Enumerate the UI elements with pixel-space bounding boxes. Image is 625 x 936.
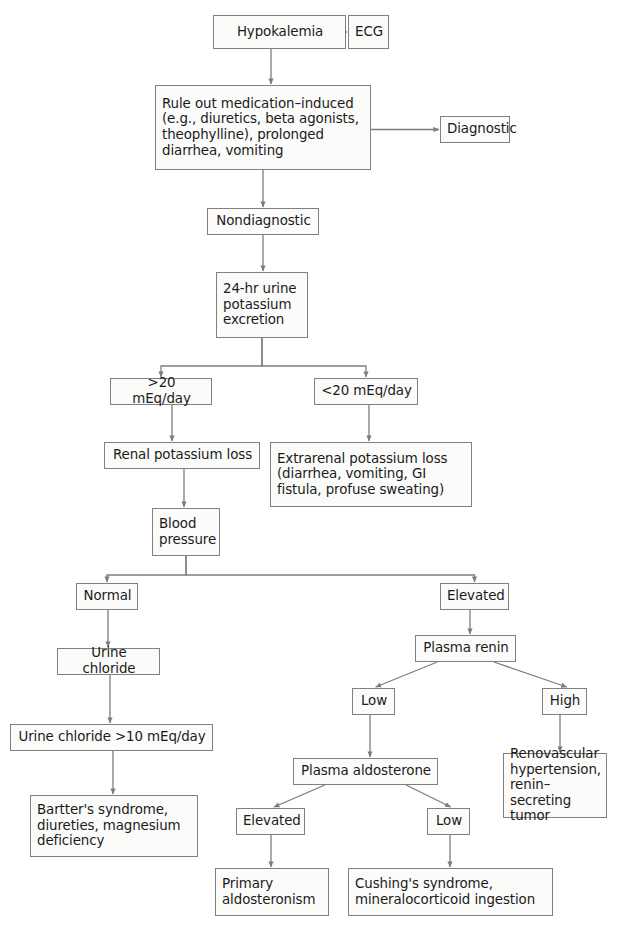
node-label-renin-high: High: [549, 693, 581, 709]
edge-e-urine-gt20: [161, 338, 262, 377]
node-diagnostic: Diagnostic: [440, 116, 510, 143]
node-bartter: Bartter's syndrome, diureties, magnesium…: [30, 795, 198, 857]
node-label-renin-low: Low: [359, 693, 389, 709]
node-urine-chloride-gt10: Urine chloride >10 mEq/day: [10, 724, 213, 751]
edge-e-aldo-elev: [274, 785, 325, 807]
node-urine-chloride: Urine chloride: [57, 648, 160, 675]
node-label-urine-chloride-gt10: Urine chloride >10 mEq/day: [17, 729, 207, 745]
node-label-lt20: <20 mEq/day: [321, 383, 412, 399]
flowchart-canvas: HypokalemiaECGRule out medication–induce…: [0, 0, 625, 936]
node-nondiagnostic: Nondiagnostic: [207, 208, 319, 235]
edge-e-bp-elevated: [186, 556, 475, 582]
node-label-plasma-aldosterone: Plasma aldosterone: [300, 763, 432, 779]
node-renovascular: Renovascular hypertension, renin–secreti…: [503, 753, 607, 818]
node-plasma-aldosterone: Plasma aldosterone: [293, 758, 438, 785]
node-label-elevated-bp: Elevated: [447, 588, 503, 604]
node-cushings: Cushing's syndrome, mineralocorticoid in…: [348, 868, 553, 916]
node-blood-pressure: Blood pressure: [152, 508, 220, 556]
node-label-gt20: >20 mEq/day: [117, 375, 206, 406]
edge-e-renin-high: [494, 662, 567, 687]
node-label-urine-potassium: 24-hr urine potassium excretion: [223, 281, 302, 328]
node-label-renal-loss: Renal potassium loss: [111, 447, 254, 463]
node-ecg: ECG: [348, 15, 389, 49]
node-label-renovascular: Renovascular hypertension, renin–secreti…: [510, 746, 601, 824]
node-rule-out: Rule out medication–induced (e.g., diure…: [155, 85, 371, 170]
node-label-normal: Normal: [83, 588, 132, 604]
node-aldo-elevated: Elevated: [236, 808, 305, 835]
edge-e-urine-lt20: [262, 338, 366, 377]
node-label-ecg: ECG: [355, 24, 383, 40]
node-gt20: >20 mEq/day: [110, 378, 212, 405]
edge-e-renin-low: [376, 662, 438, 687]
node-label-primary-aldosteronism: Primary aldosteronism: [222, 876, 323, 907]
node-label-extrarenal-loss: Extrarenal potassium loss (diarrhea, vom…: [277, 451, 466, 498]
node-label-blood-pressure: Blood pressure: [159, 516, 214, 547]
node-label-bartter: Bartter's syndrome, diureties, magnesium…: [37, 802, 192, 849]
edge-e-aldo-low: [406, 785, 451, 807]
node-elevated-bp: Elevated: [440, 583, 509, 610]
node-hypokalemia: Hypokalemia: [213, 15, 346, 49]
node-extrarenal-loss: Extrarenal potassium loss (diarrhea, vom…: [270, 442, 472, 507]
node-label-plasma-renin: Plasma renin: [422, 640, 510, 656]
node-label-cushings: Cushing's syndrome, mineralocorticoid in…: [355, 876, 547, 907]
node-primary-aldosteronism: Primary aldosteronism: [215, 868, 329, 916]
node-label-urine-chloride: Urine chloride: [64, 645, 154, 676]
node-label-aldo-elevated: Elevated: [243, 813, 299, 829]
node-normal: Normal: [76, 583, 138, 610]
node-renin-low: Low: [352, 688, 395, 715]
node-label-aldo-low: Low: [434, 813, 464, 829]
node-label-hypokalemia: Hypokalemia: [220, 24, 340, 40]
figure-caption-remnant: [4, 0, 334, 11]
node-urine-potassium: 24-hr urine potassium excretion: [216, 272, 308, 338]
node-label-rule-out: Rule out medication–induced (e.g., diure…: [162, 96, 365, 158]
node-renin-high: High: [542, 688, 587, 715]
edge-e-bp-normal: [107, 556, 186, 582]
node-plasma-renin: Plasma renin: [415, 635, 516, 662]
node-aldo-low: Low: [427, 808, 470, 835]
node-lt20: <20 mEq/day: [314, 378, 418, 405]
node-label-nondiagnostic: Nondiagnostic: [214, 213, 313, 229]
node-renal-loss: Renal potassium loss: [104, 442, 260, 469]
node-label-diagnostic: Diagnostic: [447, 121, 504, 137]
